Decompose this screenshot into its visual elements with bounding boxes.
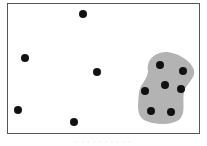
cluster-point [161, 81, 169, 89]
cluster-point [156, 61, 164, 69]
outlier-point [21, 54, 29, 62]
cluster-point [179, 67, 187, 75]
cluster-point [147, 107, 155, 115]
outlier-point [14, 106, 22, 114]
cluster-point [141, 87, 149, 95]
cluster-diagram [0, 0, 207, 146]
cluster-point [177, 85, 185, 93]
diagram-caption: · · · · · · · · · · [0, 138, 207, 145]
cluster-point [167, 108, 175, 116]
outlier-point [79, 10, 87, 18]
outlier-point [70, 118, 78, 126]
outlier-point [93, 68, 101, 76]
